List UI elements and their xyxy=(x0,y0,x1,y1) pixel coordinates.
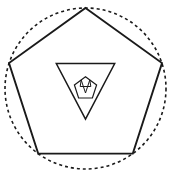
figure-background xyxy=(0,0,171,177)
pentagram-figure: Recursive pentagram inscribed in dashed … xyxy=(0,0,171,177)
pentagram-canvas: Recursive pentagram inscribed in dashed … xyxy=(0,0,171,177)
